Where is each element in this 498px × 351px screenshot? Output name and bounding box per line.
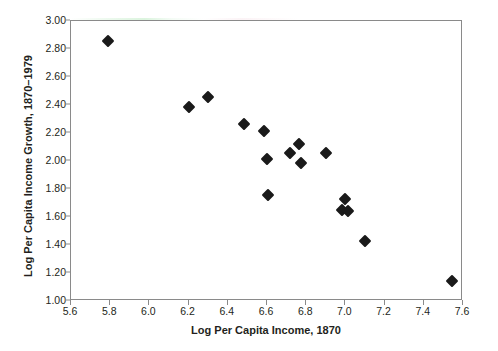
y-axis-tick-label: 2.20	[30, 126, 66, 138]
y-axis-tick-mark	[65, 76, 70, 77]
data-point	[293, 138, 306, 151]
y-axis-tick-label: 2.80	[30, 42, 66, 54]
x-axis-tick-mark	[266, 300, 267, 305]
scatter-chart-figure: 1.001.201.401.601.802.002.202.402.602.80…	[0, 0, 498, 351]
x-axis-tick-label: 6.0	[128, 305, 168, 317]
x-axis-tick-label: 6.4	[207, 305, 247, 317]
y-axis-tick-label: 3.00	[30, 14, 66, 26]
x-axis-tick-mark	[109, 300, 110, 305]
x-axis-tick-label: 6.8	[285, 305, 325, 317]
y-axis-tick-label: 1.60	[30, 210, 66, 222]
data-point	[258, 125, 271, 138]
x-axis-tick-mark	[148, 300, 149, 305]
y-axis-tick-label: 1.40	[30, 238, 66, 250]
y-axis-tick-mark	[65, 160, 70, 161]
y-axis-tick-mark	[65, 272, 70, 273]
data-point	[238, 118, 251, 131]
x-axis-tick-mark	[423, 300, 424, 305]
x-axis-tick-mark	[188, 300, 189, 305]
y-axis-tick-mark	[65, 20, 70, 21]
data-point	[359, 234, 372, 247]
y-axis-tick-label: 1.80	[30, 182, 66, 194]
x-axis-tick-mark	[305, 300, 306, 305]
x-axis-tick-mark	[344, 300, 345, 305]
data-point	[261, 153, 274, 166]
data-point	[446, 275, 459, 288]
x-axis-tick-mark	[462, 300, 463, 305]
x-axis-tick-label: 7.2	[364, 305, 404, 317]
x-axis-tick-label: 7.6	[442, 305, 482, 317]
plot-area	[70, 20, 462, 300]
x-axis-tick-mark	[70, 300, 71, 305]
x-axis-tick-mark	[384, 300, 385, 305]
y-axis-tick-label: 2.40	[30, 98, 66, 110]
data-point	[342, 205, 355, 218]
y-axis-tick-mark	[65, 244, 70, 245]
data-point	[262, 188, 275, 201]
y-axis-tick-label: 2.60	[30, 70, 66, 82]
x-axis-tick-label: 5.8	[89, 305, 129, 317]
y-axis-title: Log Per Capita Income Growth, 1870–1979	[22, 26, 34, 306]
y-axis-tick-mark	[65, 216, 70, 217]
data-point	[283, 147, 296, 160]
data-points-layer	[71, 21, 461, 299]
x-axis-tick-label: 7.4	[403, 305, 443, 317]
x-axis-tick-label: 5.6	[50, 305, 90, 317]
x-axis-tick-label: 6.2	[168, 305, 208, 317]
x-axis-tick-mark	[227, 300, 228, 305]
data-point	[202, 91, 215, 104]
y-axis-tick-label: 1.20	[30, 266, 66, 278]
x-axis-tick-label: 6.6	[246, 305, 286, 317]
y-axis-tick-label: 2.00	[30, 154, 66, 166]
y-axis-tick-mark	[65, 188, 70, 189]
data-point	[319, 147, 332, 160]
y-axis-tick-mark	[65, 48, 70, 49]
data-point	[295, 157, 308, 170]
data-point	[102, 35, 115, 48]
data-point	[182, 101, 195, 114]
x-axis-tick-label: 7.0	[324, 305, 364, 317]
y-axis-tick-mark	[65, 132, 70, 133]
y-axis-tick-mark	[65, 104, 70, 105]
x-axis-title: Log Per Capita Income, 1870	[70, 324, 462, 336]
